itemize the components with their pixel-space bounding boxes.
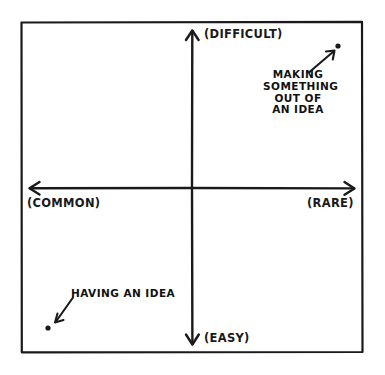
pointer-arrow-having-an-idea <box>56 298 73 322</box>
axis-label-difficult: (DIFFICULT) <box>204 27 283 41</box>
annotation-line: SOMETHING <box>263 81 333 93</box>
annotation-having-an-idea: HAVING AN IDEA <box>71 288 175 300</box>
annotation-line: AN IDEA <box>263 104 333 116</box>
axis-label-easy: (EASY) <box>204 331 250 345</box>
diagram-sketch <box>0 0 385 375</box>
axis-label-rare: (RARE) <box>307 196 354 210</box>
data-point-having-an-idea <box>45 325 50 330</box>
data-point-making-something <box>335 43 340 48</box>
diagram-canvas: (DIFFICULT) (EASY) (COMMON) (RARE) MAKIN… <box>0 0 385 375</box>
annotation-line: HAVING AN IDEA <box>71 288 175 300</box>
axis-label-common: (COMMON) <box>27 196 100 210</box>
annotation-making-something: MAKING SOMETHING OUT OF AN IDEA <box>263 69 333 116</box>
